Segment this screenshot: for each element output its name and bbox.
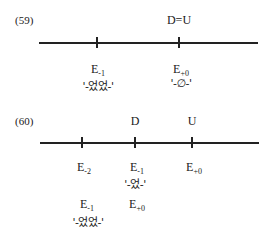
morpheme-null: '-∅-' xyxy=(170,77,191,90)
timeline xyxy=(40,142,259,144)
morpheme-eot: '-었-' xyxy=(124,175,146,191)
d-label: D xyxy=(131,114,140,129)
tick-e-minus-1 xyxy=(134,137,136,148)
morpheme-eoteot: '-었었-' xyxy=(83,77,114,93)
e-plus-0-label-row2: E+0 xyxy=(129,197,145,213)
e-minus-1-label: E-1 xyxy=(130,160,144,176)
morpheme-eoteot: '-었었-' xyxy=(73,213,104,229)
e-plus-0-label: E+0 xyxy=(173,62,189,78)
e-minus-2-label: E-2 xyxy=(77,160,91,176)
e-minus-1-label-row2: E-1 xyxy=(80,197,94,213)
tick-e-plus-0 xyxy=(191,137,193,148)
example-number: (59) xyxy=(15,14,33,26)
tick-e-minus-1 xyxy=(96,37,98,48)
example-number: (60) xyxy=(15,115,33,127)
u-label: U xyxy=(188,114,197,129)
e-minus-1-label: E-1 xyxy=(91,62,105,78)
tick-e-plus-0 xyxy=(178,37,180,48)
timeline xyxy=(39,42,258,44)
e-plus-0-label: E+0 xyxy=(186,160,202,176)
tick-e-minus-2 xyxy=(81,137,83,148)
d-equals-u-label: D=U xyxy=(167,13,191,28)
